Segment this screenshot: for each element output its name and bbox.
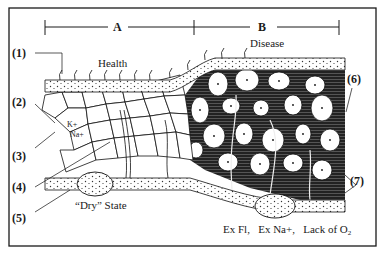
callout-2: (2): [12, 96, 26, 108]
sodium-ion-label: Na+: [70, 131, 84, 139]
callout-7: (7): [350, 175, 364, 187]
health-label: Health: [98, 58, 127, 69]
disease-label: Disease: [250, 38, 284, 49]
tissue-diagram: [0, 0, 386, 256]
section-a-label: A: [113, 21, 122, 33]
cause-lack-oxygen: Lack of O2: [303, 223, 351, 235]
callout-6: (6): [347, 73, 361, 85]
cause-excess-fluid: Ex Fl,: [223, 223, 250, 235]
disease-causes: Ex Fl, Ex Na+, Lack of O2: [223, 224, 351, 237]
section-b-label: B: [258, 21, 266, 33]
dry-state-label: “Dry” State: [75, 200, 127, 211]
callout-5: (5): [12, 212, 26, 224]
callout-3: (3): [12, 150, 26, 162]
section-bracket-b: [194, 20, 339, 35]
callout-4: (4): [12, 181, 26, 193]
callout-1: (1): [12, 47, 26, 59]
cause-excess-sodium: Ex Na+,: [258, 223, 295, 235]
potassium-ion-label: K+: [67, 121, 77, 129]
